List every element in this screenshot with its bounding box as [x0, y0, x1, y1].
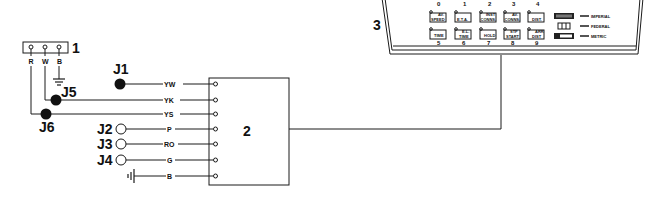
- svg-text:CONNS.: CONNS.: [505, 17, 521, 22]
- terminal-b-pin: [57, 45, 61, 49]
- svg-text:START: START: [506, 34, 520, 39]
- jack-j4: [116, 155, 126, 165]
- svg-text:IMPERIAL: IMPERIAL: [591, 14, 611, 19]
- jack-j6-label: J6: [39, 119, 55, 135]
- jack-j2: [116, 124, 126, 134]
- svg-text:METRIC: METRIC: [591, 34, 606, 39]
- jack-j3-label: J3: [97, 136, 113, 152]
- wire-yk: YK: [61, 97, 218, 104]
- callout-1: 1: [72, 40, 80, 56]
- wire-label-yw: YW: [164, 81, 176, 88]
- jack-j5-label: J5: [61, 84, 77, 100]
- wire-label-ys: YS: [164, 111, 174, 118]
- jack-j4-label: J4: [97, 152, 113, 168]
- key-av-conns[interactable]: AV. CONNS.: [504, 11, 520, 22]
- wire-label-g: G: [167, 157, 173, 164]
- svg-text:FEDERAL: FEDERAL: [591, 24, 610, 29]
- key-el-time[interactable]: E.L. TIME: [455, 28, 471, 39]
- svg-text:HOLD: HOLD: [484, 33, 495, 38]
- jack-j2-label: J2: [97, 121, 113, 137]
- svg-text:CONNS.: CONNS.: [481, 17, 497, 22]
- terminal-r-label: R: [29, 58, 34, 65]
- terminal-b-label: B: [57, 58, 62, 65]
- wire-label-b: B: [167, 173, 172, 180]
- key-number-6: 6: [462, 40, 466, 46]
- svg-text:DIST: DIST: [532, 34, 542, 39]
- wire-label-yk: YK: [164, 97, 174, 104]
- mode-imperial[interactable]: IMPERIAL: [554, 13, 611, 19]
- mode-federal[interactable]: FEDERAL: [558, 23, 610, 29]
- jack-j1-label: J1: [113, 61, 129, 77]
- key-number-5: 5: [437, 40, 441, 46]
- jack-j1: [115, 79, 126, 90]
- wire-ys: YS: [51, 111, 218, 118]
- terminal-r-pin: [29, 45, 33, 49]
- key-number-4: 4: [536, 1, 540, 7]
- key-eta[interactable]: E.T.A.: [455, 11, 471, 22]
- callout-3: 3: [373, 17, 381, 33]
- key-number-8: 8: [511, 40, 515, 46]
- svg-text:DIST.: DIST.: [532, 17, 542, 22]
- connector-1: R W B 1: [23, 40, 80, 65]
- svg-text:TIME: TIME: [459, 34, 469, 39]
- jack-j5: [51, 95, 62, 106]
- key-dist[interactable]: DIST.: [528, 11, 544, 22]
- key-hold[interactable]: HOLD: [480, 28, 496, 39]
- wire-p: P: [126, 126, 218, 133]
- wire-b: B: [142, 173, 218, 180]
- key-stp-start[interactable]: STP START: [504, 28, 520, 39]
- key-inst-conns[interactable]: INST CONNS.: [480, 11, 496, 22]
- key-number-0: 0: [437, 1, 441, 7]
- wire-label-ro: RO: [164, 141, 175, 148]
- jack-j3: [116, 139, 126, 149]
- key-number-9: 9: [535, 40, 539, 46]
- jack-j6: [41, 109, 52, 120]
- wire-label-p: P: [167, 126, 172, 133]
- key-number-1: 1: [463, 1, 467, 7]
- terminal-w-pin: [43, 45, 47, 49]
- wire-ro: RO: [126, 141, 218, 148]
- chassis-ground-icon: [128, 169, 142, 183]
- key-number-3: 3: [512, 1, 516, 7]
- display-unit-3: 3 0 1 2 3 4 AV. SPEED E.T.A. INST CONNS.: [373, 0, 643, 54]
- wire-yw: YW: [125, 81, 218, 88]
- key-arr-dist[interactable]: ARR DIST: [528, 28, 544, 39]
- key-number-7: 7: [487, 40, 491, 46]
- key-number-2: 2: [488, 1, 492, 7]
- svg-text:SPEED: SPEED: [431, 17, 445, 22]
- key-av-speed[interactable]: AV. SPEED: [430, 11, 446, 22]
- wire-g: G: [126, 157, 218, 164]
- svg-text:TIME: TIME: [434, 33, 444, 38]
- wiring-diagram: R W B 1 J1 J5 J6 J2 J3 J4 YW: [0, 0, 648, 197]
- mode-metric[interactable]: METRIC: [554, 33, 606, 39]
- key-time[interactable]: TIME: [430, 28, 446, 39]
- callout-2: 2: [243, 123, 251, 139]
- svg-text:E.T.A.: E.T.A.: [457, 17, 468, 22]
- terminal-w-label: W: [42, 58, 49, 65]
